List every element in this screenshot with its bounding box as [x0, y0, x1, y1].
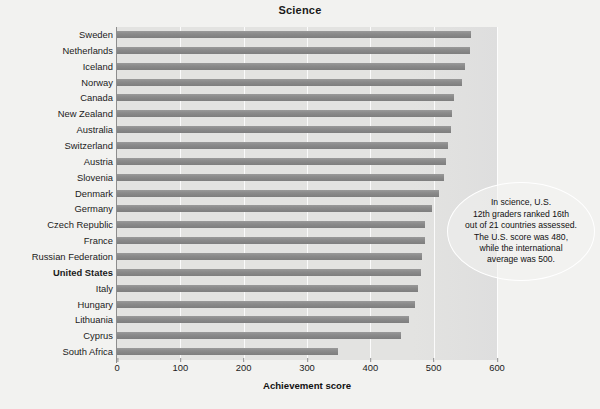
y-label-russian-federation: Russian Federation	[0, 252, 113, 262]
bar-lithuania	[117, 316, 409, 323]
x-tick-300: 300	[299, 362, 315, 373]
x-axis-tick-labels: 0100200300400500600	[0, 362, 600, 378]
bar-row	[117, 90, 497, 106]
y-label-czech-republic: Czech Republic	[0, 220, 113, 230]
y-label-switzerland: Switzerland	[0, 141, 113, 151]
bar-row	[117, 249, 497, 265]
bar-row	[117, 154, 497, 170]
y-label-france: France	[0, 236, 113, 246]
us-ranking-callout-text: In science, U.S.12th graders ranked 16th…	[449, 197, 593, 265]
plot-area	[117, 27, 497, 360]
bar-row	[117, 43, 497, 59]
bar-canada	[117, 94, 454, 101]
y-label-austria: Austria	[0, 157, 113, 167]
chart-title: Science	[0, 4, 600, 16]
bar-czech-republic	[117, 221, 425, 228]
bar-france	[117, 237, 425, 244]
x-tick-mark-600	[497, 358, 498, 362]
bar-austria	[117, 158, 446, 165]
bar-row	[117, 233, 497, 249]
y-label-new-zealand: New Zealand	[0, 109, 113, 119]
y-label-denmark: Denmark	[0, 189, 113, 199]
y-label-united-states: United States	[0, 268, 113, 278]
bar-row	[117, 312, 497, 328]
bar-row	[117, 281, 497, 297]
x-axis-title: Achievement score	[117, 380, 497, 391]
y-axis-category-labels: SwedenNetherlandsIcelandNorwayCanadaNew …	[0, 27, 113, 360]
y-label-norway: Norway	[0, 78, 113, 88]
bar-netherlands	[117, 47, 470, 54]
y-label-lithuania: Lithuania	[0, 315, 113, 325]
x-tick-500: 500	[426, 362, 442, 373]
bar-sweden	[117, 31, 471, 38]
y-label-hungary: Hungary	[0, 300, 113, 310]
bar-russian-federation	[117, 253, 422, 260]
y-label-iceland: Iceland	[0, 62, 113, 72]
y-label-sweden: Sweden	[0, 30, 113, 40]
x-tick-600: 600	[489, 362, 505, 373]
bar-denmark	[117, 190, 439, 197]
bar-row	[117, 186, 497, 202]
y-label-slovenia: Slovenia	[0, 173, 113, 183]
bar-south-africa	[117, 348, 338, 355]
y-label-cyprus: Cyprus	[0, 331, 113, 341]
bar-cyprus	[117, 332, 401, 339]
x-tick-200: 200	[236, 362, 252, 373]
y-label-australia: Australia	[0, 125, 113, 135]
bar-row	[117, 27, 497, 43]
bar-new-zealand	[117, 110, 452, 117]
x-tick-mark-300	[307, 358, 308, 362]
bar-row	[117, 265, 497, 281]
bar-row	[117, 75, 497, 91]
bar-row	[117, 138, 497, 154]
y-label-canada: Canada	[0, 93, 113, 103]
bar-iceland	[117, 63, 465, 70]
bar-row	[117, 59, 497, 75]
science-achievement-bar-chart: Science SwedenNetherlandsIcelandNorwayCa…	[0, 0, 600, 409]
x-tick-mark-500	[434, 358, 435, 362]
bar-germany	[117, 205, 432, 212]
bar-rows	[117, 27, 497, 360]
bar-row	[117, 106, 497, 122]
y-axis-line	[116, 27, 117, 363]
x-tick-100: 100	[173, 362, 189, 373]
x-tick-mark-0	[117, 358, 118, 362]
y-label-netherlands: Netherlands	[0, 46, 113, 56]
bar-switzerland	[117, 142, 448, 149]
y-label-south-africa: South Africa	[0, 347, 113, 357]
x-tick-mark-400	[370, 358, 371, 362]
bar-italy	[117, 285, 418, 292]
bar-row	[117, 201, 497, 217]
bar-row	[117, 217, 497, 233]
bar-norway	[117, 79, 462, 86]
bar-row	[117, 328, 497, 344]
bar-row	[117, 170, 497, 186]
bar-united-states	[117, 269, 421, 276]
x-tick-400: 400	[363, 362, 379, 373]
x-tick-mark-200	[244, 358, 245, 362]
bar-australia	[117, 126, 451, 133]
bar-slovenia	[117, 174, 444, 181]
y-label-italy: Italy	[0, 284, 113, 294]
us-ranking-callout: In science, U.S.12th graders ranked 16th…	[447, 182, 595, 281]
bar-row	[117, 122, 497, 138]
bar-hungary	[117, 301, 415, 308]
bar-row	[117, 297, 497, 313]
y-label-germany: Germany	[0, 204, 113, 214]
x-tick-mark-100	[180, 358, 181, 362]
x-tick-0: 0	[114, 362, 119, 373]
